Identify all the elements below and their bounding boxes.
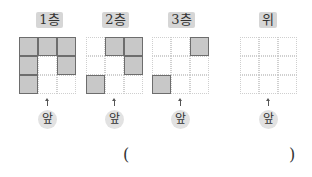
filled-cell bbox=[57, 37, 76, 56]
front-label: 앞 bbox=[105, 110, 124, 129]
empty-cell bbox=[105, 75, 124, 94]
arrow-up-icon bbox=[114, 100, 115, 106]
filled-cell bbox=[124, 56, 143, 75]
arrow-up-icon bbox=[47, 100, 48, 106]
empty-cell[interactable] bbox=[259, 56, 278, 75]
floor-1-label: 1층 bbox=[36, 12, 63, 28]
filled-cell bbox=[19, 56, 38, 75]
front-label: 앞 bbox=[171, 110, 190, 129]
filled-cell bbox=[86, 75, 105, 94]
empty-cell bbox=[190, 75, 209, 94]
answer-open-paren: ( bbox=[123, 145, 129, 164]
empty-cell bbox=[86, 56, 105, 75]
empty-cell bbox=[86, 37, 105, 56]
floor-3-grid bbox=[152, 37, 209, 94]
empty-cell bbox=[171, 75, 190, 94]
top-view-label: 위 bbox=[259, 12, 277, 28]
filled-cell bbox=[105, 37, 124, 56]
empty-cell bbox=[38, 56, 57, 75]
empty-cell bbox=[152, 56, 171, 75]
floor-2-label: 2층 bbox=[102, 12, 129, 28]
empty-cell bbox=[171, 37, 190, 56]
empty-cell[interactable] bbox=[278, 37, 297, 56]
floor-2-grid bbox=[86, 37, 143, 94]
empty-cell bbox=[57, 75, 76, 94]
filled-cell bbox=[38, 37, 57, 56]
floor-1-grid bbox=[19, 37, 76, 94]
empty-cell bbox=[152, 37, 171, 56]
filled-cell bbox=[57, 56, 76, 75]
empty-cell bbox=[38, 75, 57, 94]
empty-cell[interactable] bbox=[240, 37, 259, 56]
empty-cell[interactable] bbox=[259, 75, 278, 94]
empty-cell bbox=[105, 56, 124, 75]
empty-cell[interactable] bbox=[278, 56, 297, 75]
empty-cell[interactable] bbox=[259, 37, 278, 56]
front-label: 앞 bbox=[38, 110, 57, 129]
empty-cell[interactable] bbox=[240, 56, 259, 75]
answer-close-paren: ) bbox=[289, 145, 295, 164]
empty-cell bbox=[171, 56, 190, 75]
floor-3-label: 3층 bbox=[168, 12, 195, 28]
front-label: 앞 bbox=[259, 110, 278, 129]
arrow-up-icon bbox=[268, 100, 269, 106]
empty-cell[interactable] bbox=[240, 75, 259, 94]
arrow-up-icon bbox=[180, 100, 181, 106]
empty-cell bbox=[124, 75, 143, 94]
filled-cell bbox=[19, 37, 38, 56]
empty-cell[interactable] bbox=[278, 75, 297, 94]
answer-blank[interactable] bbox=[135, 145, 285, 165]
empty-cell bbox=[190, 56, 209, 75]
filled-cell bbox=[190, 37, 209, 56]
filled-cell bbox=[124, 37, 143, 56]
filled-cell bbox=[19, 75, 38, 94]
top-view-grid[interactable] bbox=[240, 37, 297, 94]
filled-cell bbox=[152, 75, 171, 94]
